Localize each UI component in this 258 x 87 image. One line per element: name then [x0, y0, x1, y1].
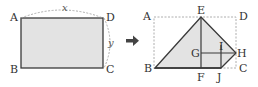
label-j: J [216, 71, 221, 84]
label-a-right: A [142, 10, 152, 23]
right-folded-figure: A E D B G I H C F J [142, 4, 248, 84]
variable-x: x [62, 2, 68, 13]
label-a-left: A [9, 11, 19, 24]
label-d-left: D [106, 11, 115, 24]
label-d-right: D [239, 10, 248, 23]
variable-y: y [107, 37, 114, 48]
label-g: G [191, 47, 200, 60]
label-e: E [197, 4, 205, 17]
label-c-right: C [239, 62, 247, 75]
label-b-left: B [10, 63, 18, 76]
label-b-right: B [144, 62, 152, 75]
right-arrow-icon [126, 36, 139, 47]
rectangle-abcd [21, 18, 103, 68]
folding-diagram: A D B C x y A E D B G I H C F J [0, 0, 258, 87]
folded-shape [155, 17, 236, 68]
left-rectangle-figure: A D B C x y [9, 2, 115, 76]
label-c-left: C [106, 63, 114, 76]
label-h: H [237, 47, 247, 60]
label-f: F [197, 71, 205, 84]
label-i: I [219, 40, 223, 53]
